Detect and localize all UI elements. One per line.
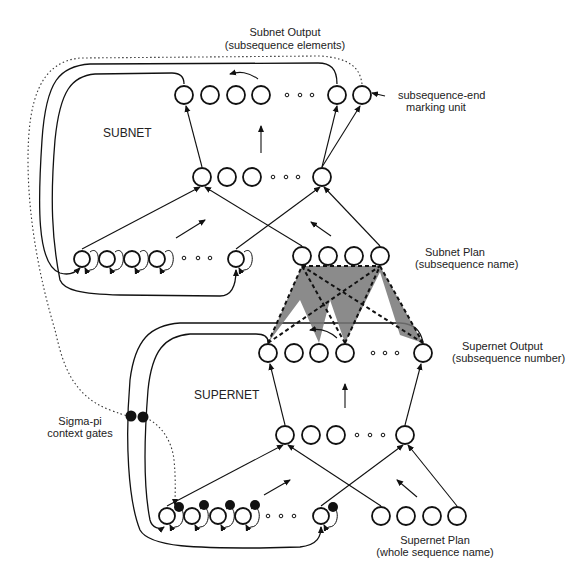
supernet-plan-layer <box>372 507 466 525</box>
subnet-output-subtitle: (subsequence elements) <box>205 39 365 51</box>
supernet-context-layer <box>159 508 329 524</box>
end-marker-dotted-path <box>28 56 362 416</box>
subnet-context-layer <box>74 251 244 267</box>
unit <box>313 168 331 186</box>
unit <box>397 507 415 525</box>
unit <box>218 168 236 186</box>
supernet-label: SUPERNET <box>194 389 259 401</box>
supernet-output-subtitle: (subsequence number) <box>452 352 565 364</box>
unit <box>201 86 219 104</box>
sigma-pi-label-2: context gates <box>40 427 120 439</box>
gate-icon <box>328 502 338 512</box>
diagram-canvas: Subnet Output (subsequence elements) sub… <box>0 0 587 587</box>
unit <box>396 426 414 444</box>
unit <box>310 344 328 362</box>
sigma-pi-gates <box>126 411 339 513</box>
unit <box>372 507 390 525</box>
unit <box>159 508 175 524</box>
network-diagram <box>0 0 587 587</box>
unit <box>210 508 226 524</box>
unit <box>448 507 466 525</box>
unit <box>175 86 193 104</box>
subnet-output-layer <box>175 86 371 104</box>
subnet-plan-layer <box>293 247 389 265</box>
unit <box>228 251 244 267</box>
unit <box>243 168 261 186</box>
unit <box>285 344 303 362</box>
subnet-plan-subtitle: (subsequence name) <box>415 258 518 270</box>
supernet-plan-title: Supernet Plan <box>380 534 490 546</box>
unit <box>328 86 346 104</box>
unit <box>124 251 140 267</box>
subnet-label: SUBNET <box>103 127 152 139</box>
unit <box>227 86 245 104</box>
unit <box>423 507 441 525</box>
end-marker-label-2: marking unit <box>406 101 466 113</box>
supernet-output-layer <box>259 344 432 362</box>
unit <box>149 251 165 267</box>
unit <box>414 344 432 362</box>
unit <box>99 251 115 267</box>
gate-to-context-dotted-path <box>146 418 175 505</box>
supernet-plan-subtitle: (whole sequence name) <box>375 546 495 558</box>
gate-icon <box>225 500 235 510</box>
unit <box>74 251 90 267</box>
supernet-hidden-layer <box>276 426 414 444</box>
gate-icon <box>199 500 209 510</box>
sigma-pi-label-1: Sigma-pi <box>45 415 115 427</box>
unit <box>276 426 294 444</box>
end-marking-unit <box>353 86 371 104</box>
unit <box>327 426 345 444</box>
unit <box>313 508 329 524</box>
unit <box>252 86 270 104</box>
unit <box>302 426 320 444</box>
unit <box>259 344 277 362</box>
gate-icon <box>138 412 149 423</box>
subnet-plan-title: Subnet Plan <box>425 246 485 258</box>
unit <box>235 508 251 524</box>
subnet-output-title: Subnet Output <box>220 26 350 38</box>
supernet-output-title: Supernet Output <box>462 340 543 352</box>
unit <box>293 247 311 265</box>
sigma-pi-connections <box>268 266 423 343</box>
gate-icon <box>250 500 260 510</box>
gate-icon <box>174 502 184 512</box>
unit <box>371 247 389 265</box>
end-marker-label-1: subsequence-end <box>398 89 485 101</box>
subnet-hidden-layer <box>193 168 331 186</box>
unit <box>184 508 200 524</box>
gate-icon <box>126 411 137 422</box>
unit <box>193 168 211 186</box>
unit <box>345 247 363 265</box>
nodes <box>74 86 466 525</box>
unit <box>336 344 354 362</box>
unit <box>319 247 337 265</box>
